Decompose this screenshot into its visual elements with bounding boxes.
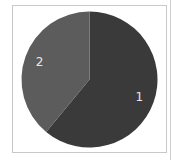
slice-label-2: 2 xyxy=(36,55,44,69)
slice-label-1: 1 xyxy=(136,90,144,104)
pie-chart: 1 2 xyxy=(0,0,172,160)
